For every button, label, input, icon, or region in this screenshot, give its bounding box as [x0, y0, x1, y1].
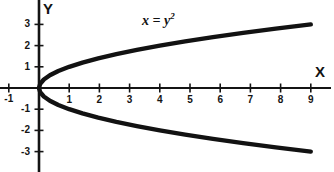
x-axis-label: X — [315, 64, 325, 79]
y-tick-label: 2 — [10, 41, 30, 51]
x-tick-label: 2 — [97, 95, 103, 105]
equation-annotation: x = y2 — [142, 14, 175, 28]
y-tick-label: -2 — [10, 125, 30, 135]
y-axis-label: Y — [43, 1, 53, 16]
equation-operator: = — [149, 13, 164, 28]
y-tick-label: -3 — [10, 147, 30, 157]
x-tick-label: 3 — [127, 95, 133, 105]
x-tick-label: 8 — [278, 95, 284, 105]
x-tick-label: 7 — [248, 95, 254, 105]
y-tick-label: -1 — [10, 104, 30, 114]
x-tick-label: 5 — [187, 95, 193, 105]
y-tick-label: 3 — [10, 19, 30, 29]
parabola-lower-branch — [39, 88, 311, 152]
y-tick-label: 1 — [10, 62, 30, 72]
x-tick-label: 9 — [308, 95, 314, 105]
x-tick-label: 6 — [217, 95, 223, 105]
equation-exponent: 2 — [170, 11, 175, 21]
parabola-upper-branch — [39, 24, 311, 88]
equation-lhs: x — [142, 13, 149, 28]
x-tick-label: 4 — [157, 95, 163, 105]
x-tick-label: -1 — [4, 94, 13, 104]
x-tick-label: 1 — [66, 95, 72, 105]
parabola-graph-figure: Y X -1123456789321-1-2-3 x = y2 — [0, 0, 334, 172]
